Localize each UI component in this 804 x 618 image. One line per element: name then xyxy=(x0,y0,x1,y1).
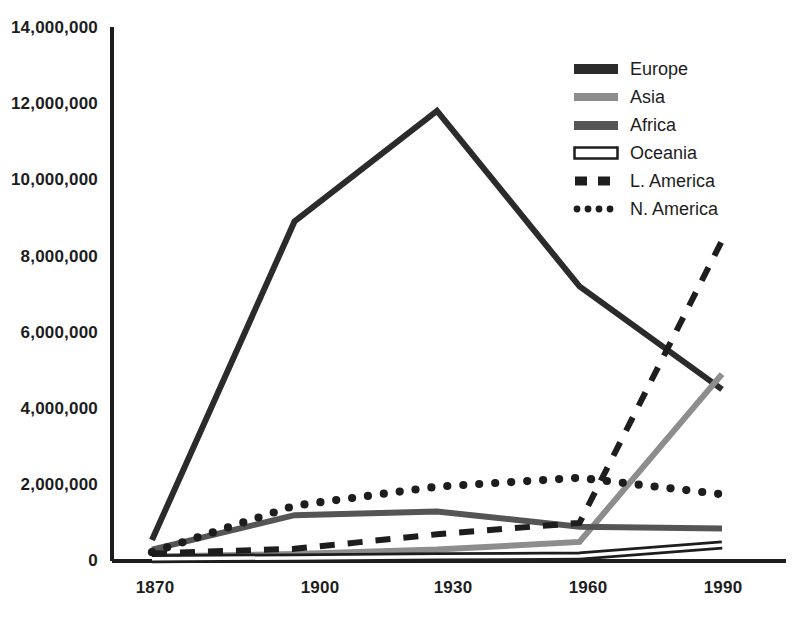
legend-label-europe: Europe xyxy=(630,59,688,80)
data-point xyxy=(178,538,186,546)
y-tick-2000000: 2,000,000 xyxy=(0,475,98,495)
legend-label-n-america: N. America xyxy=(630,199,718,220)
chart-legend: Europe Asia Africa Ocea xyxy=(572,55,797,223)
legend-label-l-america: L. America xyxy=(630,171,715,192)
data-point xyxy=(396,488,404,496)
data-point xyxy=(224,523,232,531)
y-tick-4000000: 4,000,000 xyxy=(0,399,98,419)
data-point xyxy=(148,548,156,556)
series-line-l-america xyxy=(152,241,722,554)
data-point xyxy=(332,496,340,504)
data-point xyxy=(587,475,595,483)
data-point xyxy=(427,483,435,491)
data-point xyxy=(603,477,611,485)
data-point xyxy=(523,477,531,485)
data-point xyxy=(364,492,372,500)
data-point xyxy=(300,500,308,508)
data-point xyxy=(270,508,278,516)
data-point xyxy=(666,484,674,492)
data-point xyxy=(698,488,706,496)
data-point xyxy=(239,518,247,526)
x-tick-1990: 1990 xyxy=(688,578,758,598)
legend-item-n-america: N. America xyxy=(572,195,797,223)
legend-swatch-oceania-icon xyxy=(572,139,620,167)
data-point xyxy=(571,474,579,482)
x-tick-1960: 1960 xyxy=(553,578,623,598)
line-chart: 14,000,000 12,000,000 10,000,000 8,000,0… xyxy=(0,0,804,618)
y-tick-0: 0 xyxy=(0,551,98,571)
data-point xyxy=(555,475,563,483)
data-point xyxy=(285,503,293,511)
data-point xyxy=(411,485,419,493)
y-tick-6000000: 6,000,000 xyxy=(0,323,98,343)
legend-item-africa: Africa xyxy=(572,111,797,139)
legend-swatch-n-america-icon xyxy=(572,195,620,223)
y-tick-14000000: 14,000,000 xyxy=(0,18,98,38)
data-point xyxy=(651,482,659,490)
data-point xyxy=(459,481,467,489)
data-point xyxy=(539,476,547,484)
data-point xyxy=(348,494,356,502)
y-tick-10000000: 10,000,000 xyxy=(0,170,98,190)
x-tick-1870: 1870 xyxy=(120,578,190,598)
legend-swatch-asia-icon xyxy=(572,83,620,111)
data-point xyxy=(209,528,217,536)
legend-label-asia: Asia xyxy=(630,87,665,108)
data-point xyxy=(682,486,690,494)
legend-swatch-africa-icon xyxy=(572,111,620,139)
data-point xyxy=(194,533,202,541)
legend-swatch-l-america-icon xyxy=(572,167,620,195)
data-point xyxy=(507,478,515,486)
data-point xyxy=(443,482,451,490)
data-point xyxy=(163,543,171,551)
data-point xyxy=(714,490,722,498)
data-point xyxy=(254,513,262,521)
data-point xyxy=(380,490,388,498)
legend-item-asia: Asia xyxy=(572,83,797,111)
legend-label-oceania: Oceania xyxy=(630,143,697,164)
data-point xyxy=(635,481,643,489)
x-tick-1900: 1900 xyxy=(285,578,355,598)
series-line-africa xyxy=(152,511,722,549)
x-tick-1930: 1930 xyxy=(418,578,488,598)
data-point xyxy=(491,479,499,487)
legend-item-europe: Europe xyxy=(572,55,797,83)
data-point xyxy=(619,479,627,487)
legend-label-africa: Africa xyxy=(630,115,676,136)
y-tick-12000000: 12,000,000 xyxy=(0,94,98,114)
legend-item-l-america: L. America xyxy=(572,167,797,195)
data-point xyxy=(475,480,483,488)
data-point xyxy=(316,498,324,506)
y-tick-8000000: 8,000,000 xyxy=(0,247,98,267)
legend-swatch-europe-icon xyxy=(572,55,620,83)
legend-item-oceania: Oceania xyxy=(572,139,797,167)
